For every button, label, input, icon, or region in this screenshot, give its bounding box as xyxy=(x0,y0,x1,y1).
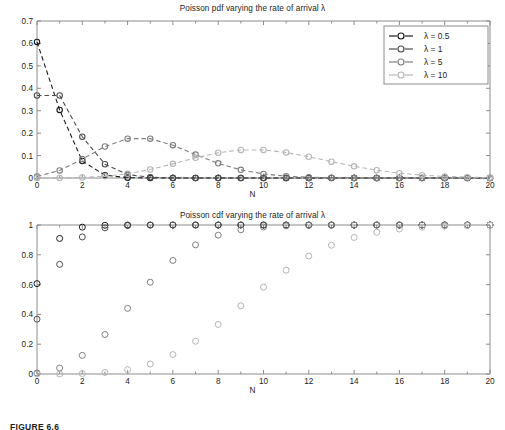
x-tick-label: 6 xyxy=(171,377,176,386)
y-tick-label: 0.6 xyxy=(22,39,34,48)
y-tick-label: 1 xyxy=(28,221,33,230)
x-tick-label: 16 xyxy=(395,377,405,386)
x-tick-label: 2 xyxy=(80,377,85,386)
data-series xyxy=(34,222,493,376)
y-tick-label: 0.6 xyxy=(22,281,34,290)
y-tick-label: 0 xyxy=(28,370,33,379)
x-tick-label: 18 xyxy=(440,377,450,386)
x-tick-label: 8 xyxy=(216,377,221,386)
y-tick-label: 0.2 xyxy=(22,340,34,349)
x-tick-label: 0 xyxy=(35,181,40,190)
y-tick-label: 0.4 xyxy=(22,84,34,93)
y-tick-label: 0.7 xyxy=(22,17,34,26)
x-tick-label: 4 xyxy=(125,377,130,386)
poisson-cdf-plot: 0246810121416182000.20.40.60.81 xyxy=(0,205,505,403)
x-tick-label: 20 xyxy=(485,377,495,386)
pdf-x-axis-label: N xyxy=(0,190,505,199)
cdf-x-axis-label: N xyxy=(0,386,505,395)
x-tick-label: 8 xyxy=(216,181,221,190)
figure-container: Poisson pdf varying the rate of arrival … xyxy=(0,0,505,430)
legend-label: λ = 10 xyxy=(424,70,447,80)
x-tick-label: 14 xyxy=(350,181,360,190)
y-tick-label: 0.4 xyxy=(22,310,34,319)
legend: λ = 0.5λ = 1λ = 5λ = 10 xyxy=(384,26,488,84)
x-tick-label: 4 xyxy=(125,181,130,190)
legend-label: λ = 1 xyxy=(424,44,443,54)
y-tick-label: 0.3 xyxy=(22,107,34,116)
x-tick-label: 18 xyxy=(440,181,450,190)
y-tick-label: 0.5 xyxy=(22,62,34,71)
x-tick-label: 10 xyxy=(259,181,269,190)
y-tick-label: 0 xyxy=(28,174,33,183)
x-tick-label: 20 xyxy=(485,181,495,190)
data-series xyxy=(34,222,493,287)
y-tick-label: 0.1 xyxy=(22,152,34,161)
x-tick-label: 14 xyxy=(350,377,360,386)
x-tick-label: 12 xyxy=(304,377,314,386)
x-tick-label: 16 xyxy=(395,181,405,190)
poisson-pdf-plot: 0246810121416182000.10.20.30.40.50.60.7λ… xyxy=(0,0,505,205)
legend-label: λ = 0.5 xyxy=(424,31,450,41)
x-tick-label: 10 xyxy=(259,377,269,386)
y-tick-label: 0.8 xyxy=(22,251,34,260)
y-tick-label: 0.2 xyxy=(22,129,34,138)
poisson-pdf-panel: Poisson pdf varying the rate of arrival … xyxy=(0,0,505,205)
poisson-cdf-panel: Poisson cdf varying the rate of arrival … xyxy=(0,205,505,403)
x-tick-label: 6 xyxy=(171,181,176,190)
data-series xyxy=(34,222,493,377)
x-tick-label: 2 xyxy=(80,181,85,190)
legend-label: λ = 5 xyxy=(424,57,443,67)
data-series xyxy=(34,93,492,181)
x-tick-label: 0 xyxy=(35,377,40,386)
figure-caption: FIGURE 6.6 xyxy=(10,422,59,430)
x-tick-label: 12 xyxy=(304,181,314,190)
data-series xyxy=(34,222,493,322)
